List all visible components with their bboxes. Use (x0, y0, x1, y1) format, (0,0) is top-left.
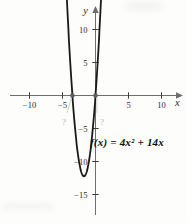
function-equation: f(x) = 4x² + 14x (90, 136, 164, 148)
unknown-value-question-mark: ? (62, 117, 66, 127)
y-tick-label: −10 (74, 157, 87, 167)
x-tick-label: 5 (126, 100, 130, 110)
y-tick-label: −15 (74, 190, 87, 200)
x-tick-label: −10 (23, 100, 36, 110)
function-plot: −10−5510105−5−10−15yx ?? (0, 0, 187, 223)
y-tick-label: 10 (79, 25, 88, 35)
unknown-intercept-callouts: ?? (62, 98, 104, 127)
graph-panel: −10−5510105−5−10−15yx ?? f(x) = 4x² + 14… (0, 0, 187, 223)
axis-tick-labels: −10−5510105−5−10−15yx (23, 5, 180, 200)
x-tick-label: 10 (157, 100, 166, 110)
x-tick-label: −5 (58, 100, 67, 110)
x-intercept-dot (93, 93, 98, 98)
y-axis-arrow-icon (92, 6, 98, 13)
y-tick-label: −5 (78, 124, 87, 134)
x-axis-letter: x (174, 97, 180, 108)
y-axis-letter: y (82, 5, 88, 16)
y-tick-label: 5 (83, 58, 87, 68)
unknown-value-question-mark: ? (100, 117, 104, 127)
callout-line (67, 98, 71, 113)
x-intercept-dot (70, 93, 75, 98)
